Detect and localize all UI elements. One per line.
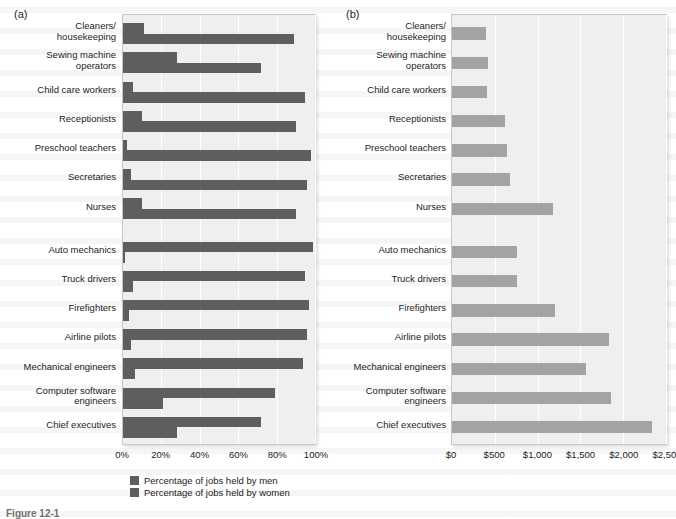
- bar: [123, 252, 125, 263]
- bar-row: [123, 398, 315, 409]
- category-label: Chief executives: [0, 420, 116, 431]
- bar-row: [123, 140, 315, 151]
- bar-row: [123, 198, 315, 209]
- bar: [123, 150, 311, 161]
- bar: [123, 169, 131, 180]
- x-tick-label: 80%: [268, 449, 287, 460]
- bar-row: [123, 300, 315, 311]
- bar-row: [123, 417, 315, 428]
- bar: [452, 275, 517, 288]
- bar-row: [123, 169, 315, 180]
- bar-row: [452, 27, 666, 40]
- category-label: Sewing machine operators: [0, 50, 116, 71]
- bar-row: [123, 23, 315, 34]
- panel-b-bars: [452, 15, 666, 444]
- figure-caption: Figure 12-1: [6, 508, 59, 519]
- category-label: Mechanical engineers: [0, 362, 116, 373]
- panel-b-category-labels: Cleaners/ housekeepingSewing machine ope…: [338, 14, 446, 445]
- bar: [123, 82, 133, 93]
- chart-panel-a: (a) Cleaners/ housekeepingSewing machine…: [0, 0, 338, 519]
- category-label: Firefighters: [338, 303, 446, 314]
- bar-row: [123, 310, 315, 321]
- panel-a-bars: [123, 15, 315, 444]
- bar-row: [452, 86, 666, 99]
- category-label: Child care workers: [338, 85, 446, 96]
- bar-row: [452, 304, 666, 317]
- bar-row: [452, 392, 666, 405]
- bar: [452, 246, 517, 259]
- category-label: Computer software engineers: [0, 386, 116, 407]
- bar-row: [123, 150, 315, 161]
- legend-item: Percentage of jobs held by men: [130, 474, 290, 486]
- bar: [452, 392, 611, 405]
- bar: [452, 363, 586, 376]
- bar-row: [123, 209, 315, 220]
- category-label: Nurses: [0, 202, 116, 213]
- category-label: Computer software engineers: [338, 386, 446, 407]
- category-label: Secretaries: [338, 172, 446, 183]
- legend-label: Percentage of jobs held by women: [144, 487, 290, 498]
- bar-row: [123, 281, 315, 292]
- bar-row: [123, 271, 315, 282]
- x-tick-label: 40%: [190, 449, 209, 460]
- category-label: Receptionists: [0, 114, 116, 125]
- category-label: Secretaries: [0, 172, 116, 183]
- bar: [452, 115, 505, 128]
- panel-b-plot-area: [451, 14, 667, 445]
- bar-row: [452, 363, 666, 376]
- category-label: Auto mechanics: [338, 245, 446, 256]
- category-label: Airline pilots: [0, 332, 116, 343]
- bar: [452, 333, 609, 346]
- bar-row: [452, 115, 666, 128]
- bar-row: [452, 421, 666, 434]
- bar: [452, 57, 488, 70]
- bar: [123, 34, 294, 45]
- bar: [123, 52, 177, 63]
- bar-row: [123, 340, 315, 351]
- category-label: Airline pilots: [338, 332, 446, 343]
- bar-row: [452, 246, 666, 259]
- chart-panel-b: (b) Cleaners/ housekeepingSewing machine…: [338, 0, 676, 519]
- bar: [123, 340, 131, 351]
- bar: [452, 421, 652, 434]
- category-label: Cleaners/ housekeeping: [338, 21, 446, 42]
- category-label: Nurses: [338, 202, 446, 213]
- bar-row: [123, 358, 315, 369]
- panel-a-x-axis-ticks: 0%20%40%60%80%100%: [122, 449, 316, 463]
- bar: [123, 92, 305, 103]
- category-label: Auto mechanics: [0, 245, 116, 256]
- bar: [123, 300, 309, 311]
- bar: [123, 427, 177, 438]
- bar: [123, 180, 307, 191]
- x-tick-label: 0%: [115, 449, 129, 460]
- x-tick-label: $500: [484, 449, 505, 460]
- bar: [123, 198, 142, 209]
- bar-row: [123, 329, 315, 340]
- bar: [123, 281, 133, 292]
- bar-row: [123, 180, 315, 191]
- bar-row: [452, 144, 666, 157]
- x-tick-label: $2,500: [652, 449, 676, 460]
- bar-row: [452, 57, 666, 70]
- bar-row: [123, 82, 315, 93]
- bar: [123, 209, 296, 220]
- legend-item: Percentage of jobs held by women: [130, 486, 290, 498]
- x-tick-label: $1,500: [566, 449, 595, 460]
- x-tick-label: 60%: [229, 449, 248, 460]
- category-label: Sewing machine operators: [338, 50, 446, 71]
- bar: [123, 271, 305, 282]
- panel-a-category-labels: Cleaners/ housekeepingSewing machine ope…: [0, 14, 116, 445]
- gridline: [315, 15, 316, 444]
- category-label: Preschool teachers: [0, 143, 116, 154]
- bar-row: [452, 173, 666, 186]
- bar-row: [123, 388, 315, 399]
- gridline: [666, 15, 667, 444]
- category-label: Truck drivers: [338, 274, 446, 285]
- bar: [123, 121, 296, 132]
- bar: [123, 63, 261, 74]
- category-label: Truck drivers: [0, 274, 116, 285]
- bar: [452, 173, 510, 186]
- bar: [452, 304, 555, 317]
- bar: [123, 369, 135, 380]
- bar-row: [123, 427, 315, 438]
